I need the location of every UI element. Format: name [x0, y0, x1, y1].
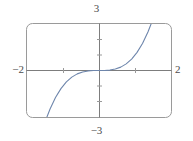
x-max-label: 2	[175, 64, 191, 75]
graph-plot-area	[0, 0, 193, 141]
x-min-label: −2	[4, 64, 24, 75]
y-min-label: −3	[0, 125, 193, 136]
y-max-label: 3	[0, 3, 193, 14]
graph-figure: 3 −3 −2 2	[0, 0, 193, 141]
